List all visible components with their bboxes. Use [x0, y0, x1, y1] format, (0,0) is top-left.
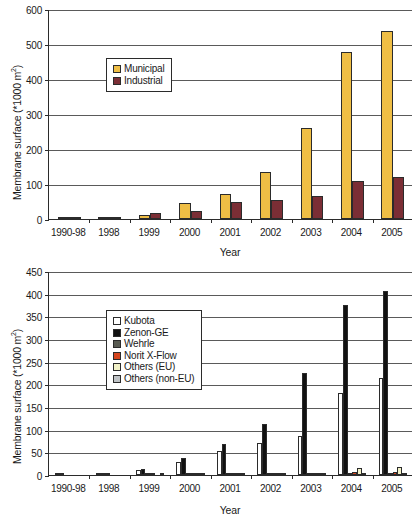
bar-zenon-ge-2003	[302, 373, 307, 475]
y-tick-mark	[45, 10, 49, 11]
x-tick-label: 1990-98	[48, 483, 88, 494]
y-axis-title-bottom-unit: *1000 m	[11, 336, 23, 374]
legend-swatch-icon	[113, 329, 121, 337]
y-axis-title-bottom-prefix: Membrane surface (	[11, 374, 23, 464]
x-tick-label: 2002	[250, 227, 290, 238]
legend-label: Municipal	[124, 64, 164, 75]
x-tick-label: 1990-98	[48, 227, 88, 238]
y-tick-mark	[45, 340, 49, 341]
legend-swatch-icon	[113, 352, 121, 360]
x-tick-mark	[130, 475, 131, 479]
gridline	[49, 45, 412, 46]
bar-zenon-ge-2005	[383, 291, 388, 476]
x-tick-label: 2004	[331, 483, 371, 494]
y-axis-title-top-suffix: )	[11, 65, 23, 68]
x-tick-mark	[292, 219, 293, 223]
legend-item: Wehrle	[113, 339, 194, 350]
bar-others-non-eu-2005	[402, 473, 407, 475]
x-tick-mark	[373, 219, 374, 223]
x-tick-label: 2005	[372, 483, 412, 494]
x-tick-mark	[89, 219, 90, 223]
legend-swatch-icon	[113, 363, 121, 371]
legend-item: Industrial	[113, 76, 164, 87]
x-tick-label: 2000	[169, 227, 209, 238]
x-tick-mark	[130, 219, 131, 223]
legend-swatch-icon	[113, 375, 121, 383]
x-tick-mark	[170, 475, 171, 479]
gridline	[49, 295, 412, 296]
legend-label: Zenon-GE	[124, 328, 169, 339]
y-tick-label: 300	[26, 110, 42, 121]
bar-zenon-ge-1990-98	[60, 473, 65, 475]
y-tick-mark	[45, 272, 49, 273]
y-axis-title-top-prefix: Membrane surface (	[11, 110, 23, 200]
y-tick-mark	[45, 408, 49, 409]
legend-swatch-icon	[113, 77, 121, 85]
x-tick-mark	[170, 219, 171, 223]
gridline	[49, 340, 412, 341]
plot-area-top	[48, 10, 412, 220]
bar-industrial-1990-98	[69, 217, 80, 219]
bar-municipal-2004	[341, 52, 352, 219]
legend-label: Others (non-EU)	[124, 374, 194, 385]
gridline	[49, 453, 412, 454]
bar-municipal-1998	[98, 217, 109, 219]
bar-industrial-1999	[150, 213, 161, 219]
y-axis-title-bottom-suffix: )	[11, 329, 23, 332]
chart-suppliers: Membrane surface (*1000 m2) Year KubotaZ…	[0, 264, 420, 527]
bar-industrial-2001	[231, 202, 242, 220]
y-tick-label: 450	[26, 267, 42, 278]
y-tick-label: 200	[26, 145, 42, 156]
legend-item: Zenon-GE	[113, 328, 194, 339]
x-tick-label: 2001	[210, 227, 250, 238]
x-tick-mark	[211, 219, 212, 223]
x-tick-label: 1998	[88, 483, 128, 494]
y-tick-mark	[45, 115, 49, 116]
legend-item: Others (non-EU)	[113, 374, 194, 385]
bar-industrial-1998	[110, 217, 121, 219]
y-tick-mark	[45, 185, 49, 186]
legend-label: Norit X-Flow	[124, 351, 177, 362]
gridline	[49, 272, 412, 273]
y-axis-title-bottom: Membrane surface (*1000 m2)	[10, 329, 23, 464]
x-tick-label: 1999	[129, 227, 169, 238]
legend-bottom: KubotaZenon-GEWehrleNorit X-FlowOthers (…	[106, 310, 202, 390]
bar-municipal-2000	[179, 203, 190, 219]
y-axis-title-top-unit: *1000 m	[11, 72, 23, 110]
gridline	[49, 385, 412, 386]
x-tick-label: 2000	[169, 483, 209, 494]
x-axis-title-top: Year	[48, 246, 412, 258]
gridline	[49, 363, 412, 364]
legend-item: Others (EU)	[113, 362, 194, 373]
plot-area-bottom	[48, 272, 412, 476]
y-axis-title-bottom-sup: 2	[10, 332, 17, 336]
y-tick-mark	[45, 385, 49, 386]
legend-swatch-icon	[113, 65, 121, 73]
bar-municipal-2001	[220, 194, 231, 219]
x-tick-mark	[251, 475, 252, 479]
y-tick-label: 150	[26, 403, 42, 414]
gridline	[49, 10, 412, 11]
x-tick-mark	[211, 475, 212, 479]
legend-swatch-icon	[113, 317, 121, 325]
bar-industrial-2004	[352, 181, 363, 220]
bar-zenon-ge-2001	[222, 444, 227, 475]
bar-others-non-eu-1999	[160, 473, 165, 475]
gridline	[49, 115, 412, 116]
y-tick-mark	[45, 476, 49, 477]
bar-industrial-2000	[191, 211, 202, 219]
bar-zenon-ge-2002	[262, 424, 267, 475]
gridline	[49, 150, 412, 151]
x-tick-mark	[332, 475, 333, 479]
y-axis-title-top-sup: 2	[10, 68, 17, 72]
y-tick-label: 350	[26, 312, 42, 323]
bar-industrial-2002	[271, 200, 282, 219]
legend-label: Kubota	[124, 316, 155, 327]
x-tick-label: 2005	[372, 227, 412, 238]
bar-municipal-2005	[381, 31, 392, 219]
legend-swatch-icon	[113, 340, 121, 348]
y-axis-title-top: Membrane surface (*1000 m2)	[10, 65, 23, 200]
bar-municipal-2003	[301, 128, 312, 219]
bar-others-non-eu-2003	[321, 473, 326, 475]
y-tick-label: 500	[26, 40, 42, 51]
